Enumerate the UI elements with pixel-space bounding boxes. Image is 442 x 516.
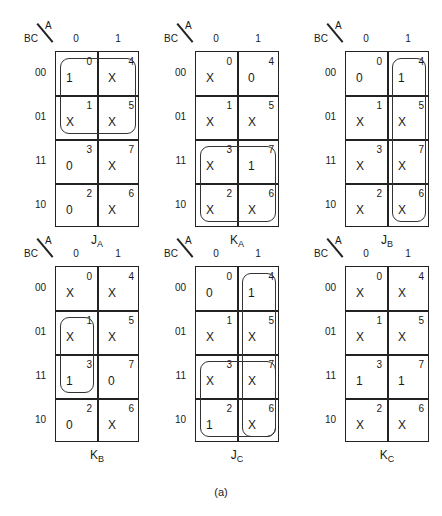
kmap-cell: X4: [388, 267, 430, 311]
column-variable-label: A: [45, 235, 52, 246]
row-header: 01: [162, 111, 186, 122]
kmap-cell: 07: [98, 355, 140, 399]
row-header: 01: [162, 326, 186, 337]
row-header: 11: [162, 155, 186, 166]
kmap-cell: X1: [346, 311, 388, 355]
kmap-title: JC: [195, 448, 279, 464]
grouping-loop: [200, 361, 276, 437]
cell-minterm-index: 0: [86, 271, 92, 282]
kmap-cell: X1: [196, 96, 238, 140]
cell-value: X: [356, 203, 364, 217]
kmap-title-name: K: [90, 448, 98, 462]
row-variable-label: BC: [164, 248, 178, 259]
cell-minterm-index: 4: [418, 271, 424, 282]
kmap-grid: X0X4X1X51317X2X6: [345, 266, 429, 442]
cell-value: X: [356, 159, 364, 173]
column-header: 0: [345, 248, 387, 259]
cell-minterm-index: 7: [128, 144, 134, 155]
cell-value: 1: [398, 374, 405, 388]
column-header: 0: [345, 33, 387, 44]
row-header: 11: [22, 370, 46, 381]
column-header: 1: [387, 33, 429, 44]
cell-minterm-index: 5: [418, 315, 424, 326]
kmap-cell: X6: [98, 399, 140, 443]
cell-minterm-index: 6: [128, 403, 134, 414]
kmap-ka: BCA0100011110X004X1X5X317X2X6KA: [140, 51, 280, 261]
row-header: 10: [22, 414, 46, 425]
row-header: 00: [312, 282, 336, 293]
kmap-cell: 00: [196, 267, 238, 311]
column-header: 1: [97, 248, 139, 259]
row-variable-label: BC: [164, 33, 178, 44]
kmap-title-name: K: [230, 233, 238, 247]
cell-minterm-index: 4: [268, 56, 274, 67]
cell-value: X: [206, 71, 214, 85]
cell-minterm-index: 0: [376, 56, 382, 67]
cell-value: 0: [66, 203, 73, 217]
kmap-title-subscript: C: [237, 454, 244, 464]
cell-value: X: [356, 115, 364, 129]
kmap-cell: X5: [238, 96, 280, 140]
row-header: 00: [162, 67, 186, 78]
cell-minterm-index: 1: [226, 315, 232, 326]
cell-value: X: [66, 286, 74, 300]
grouping-loop: [60, 58, 136, 134]
column-variable-label: A: [335, 20, 342, 31]
cell-minterm-index: 5: [128, 315, 134, 326]
kmap-title-subscript: C: [388, 454, 395, 464]
column-variable-label: A: [335, 235, 342, 246]
grouping-loop: [60, 317, 94, 393]
row-header: 10: [162, 199, 186, 210]
row-header: 11: [22, 155, 46, 166]
kmap-cell: 04: [238, 52, 280, 96]
column-header: 1: [237, 248, 279, 259]
cell-minterm-index: 6: [128, 188, 134, 199]
kmap-cell: X0: [196, 52, 238, 96]
kmap-cell: X5: [98, 311, 140, 355]
kmap-title: JB: [345, 233, 429, 249]
cell-value: X: [206, 330, 214, 344]
kmap-title: KB: [55, 448, 139, 464]
cell-minterm-index: 6: [418, 403, 424, 414]
column-header: 0: [55, 33, 97, 44]
kmap-cell: 02: [56, 399, 98, 443]
cell-minterm-index: 5: [268, 100, 274, 111]
row-header: 00: [22, 67, 46, 78]
kmap-cell: X0: [346, 267, 388, 311]
kmap-title-subscript: B: [98, 454, 104, 464]
cell-minterm-index: 1: [376, 315, 382, 326]
cell-minterm-index: 2: [86, 188, 92, 199]
cell-value: 0: [248, 71, 255, 85]
cell-value: X: [356, 418, 364, 432]
kmap-cell: X5: [388, 311, 430, 355]
cell-minterm-index: 1: [226, 100, 232, 111]
kmap-grid: X0X4X1X5130702X6: [55, 266, 139, 442]
cell-value: X: [398, 418, 406, 432]
column-header: 0: [55, 248, 97, 259]
row-header: 01: [22, 111, 46, 122]
cell-value: 0: [66, 418, 73, 432]
kmap-cell: X2: [346, 399, 388, 443]
cell-value: X: [356, 330, 364, 344]
row-header: 00: [312, 67, 336, 78]
kmap-jc: BCA01000111100014X1X5X3X712X6JC: [140, 266, 280, 476]
kmap-cell: X3: [346, 140, 388, 184]
cell-value: X: [108, 286, 116, 300]
cell-value: X: [248, 115, 256, 129]
kmap-grid: 0014X1X5X3X712X6: [195, 266, 279, 442]
row-header: 01: [312, 111, 336, 122]
kmap-grid: X004X1X5X317X2X6: [195, 51, 279, 227]
column-variable-label: A: [185, 20, 192, 31]
kmap-title: KC: [345, 448, 429, 464]
cell-value: X: [356, 286, 364, 300]
kmap-cell: X2: [346, 184, 388, 228]
cell-minterm-index: 3: [376, 144, 382, 155]
column-header: 1: [387, 248, 429, 259]
cell-minterm-index: 7: [128, 359, 134, 370]
cell-value: X: [206, 115, 214, 129]
kmap-title: JA: [55, 233, 139, 249]
kmap-cell: 02: [56, 184, 98, 228]
cell-value: 0: [206, 286, 213, 300]
cell-value: X: [398, 286, 406, 300]
row-header: 00: [22, 282, 46, 293]
